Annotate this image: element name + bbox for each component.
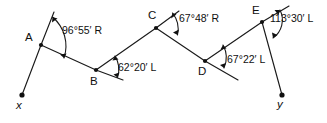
station-label-A: A (25, 32, 33, 44)
segment-x-A (22, 45, 41, 95)
segment-A-B (41, 45, 96, 70)
terminal-label-y: y (277, 99, 283, 111)
angle-arc-C (171, 13, 179, 35)
station-dot-E (260, 20, 264, 24)
station-dot-C (154, 26, 158, 30)
angle-label-D: 67°22′ L (227, 54, 265, 65)
station-label-E: E (252, 5, 260, 17)
station-label-B: B (90, 76, 98, 88)
angle-label-B: 62°20′ L (118, 62, 156, 73)
station-dot-A (39, 43, 43, 47)
terminal-dot-x (19, 92, 24, 97)
tangent-at-C (156, 11, 179, 28)
station-label-D: D (198, 66, 206, 78)
terminal-label-x: x (16, 100, 22, 112)
angle-label-C: 67°48′ R (179, 13, 219, 24)
terminal-dots (19, 92, 284, 97)
traverse-diagram: A B C D E x y 96°55′ R 62°20′ L 67°48′ R… (0, 0, 327, 123)
angle-arc-D (220, 45, 227, 68)
terminal-dot-y (279, 92, 284, 97)
angle-label-A: 96°55′ R (62, 25, 102, 36)
segment-C-D (156, 28, 205, 61)
station-dot-D (203, 59, 207, 63)
angle-label-E: 113°30′ L (270, 13, 313, 24)
station-dot-B (94, 68, 98, 72)
tangent-extension-lines (41, 6, 289, 80)
station-label-C: C (148, 10, 156, 22)
